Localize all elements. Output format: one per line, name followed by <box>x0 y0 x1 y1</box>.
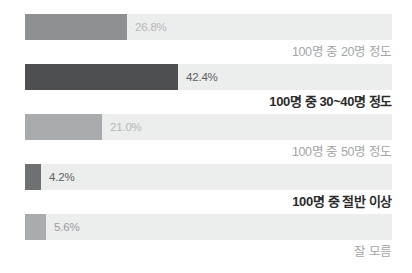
chart-row: 26.8% 100명 중 20명 정도 <box>0 14 412 64</box>
bar-value-label: 42.4% <box>186 64 218 90</box>
bar-track: 4.2% <box>25 164 392 190</box>
bar-fill <box>25 14 127 40</box>
horizontal-bar-chart: 26.8% 100명 중 20명 정도 42.4% 100명 중 30~40명 … <box>0 0 412 273</box>
category-label: 100명 중 20명 정도 <box>292 42 392 62</box>
bar-value-label: 5.6% <box>54 214 79 240</box>
bar-value-label: 26.8% <box>135 14 167 40</box>
category-label: 100명 중 절반 이상 <box>292 192 392 212</box>
bar-value-label: 4.2% <box>49 164 74 190</box>
bar-track: 5.6% <box>25 214 392 240</box>
chart-row: 5.6% 잘 모름 <box>0 214 412 264</box>
chart-row: 4.2% 100명 중 절반 이상 <box>0 164 412 214</box>
bar-value-label: 21.0% <box>110 114 142 140</box>
bar-fill <box>25 114 102 140</box>
chart-row: 42.4% 100명 중 30~40명 정도 <box>0 64 412 114</box>
bar-track: 42.4% <box>25 64 392 90</box>
bar-fill <box>25 164 41 190</box>
category-label: 100명 중 50명 정도 <box>292 142 392 162</box>
bar-track: 21.0% <box>25 114 392 140</box>
category-label: 100명 중 30~40명 정도 <box>269 92 392 112</box>
chart-row: 21.0% 100명 중 50명 정도 <box>0 114 412 164</box>
bar-fill <box>25 64 178 90</box>
bar-fill <box>25 214 46 240</box>
bar-track: 26.8% <box>25 14 392 40</box>
category-label: 잘 모름 <box>354 242 392 262</box>
